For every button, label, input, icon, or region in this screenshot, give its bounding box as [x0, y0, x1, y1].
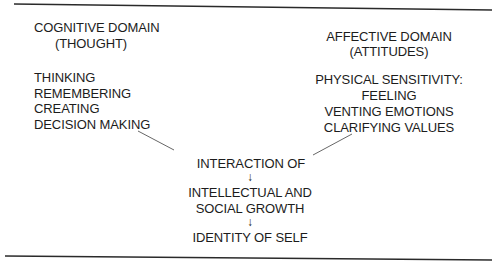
affective-connector [313, 134, 352, 155]
affective-item: CLARIFYING VALUES [324, 120, 454, 135]
cognitive-item: THINKING [34, 70, 95, 85]
down-arrow-icon: ↓ [247, 216, 253, 228]
flow-step-identity: IDENTITY OF SELF [192, 230, 307, 245]
affective-item: VENTING EMOTIONS [324, 104, 453, 119]
flow-step-interaction: INTERACTION OF [197, 156, 305, 171]
affective-item: FEELING [362, 88, 417, 103]
cognitive-domain-subtitle: (THOUGHT) [55, 36, 127, 51]
bottom-rule [5, 256, 492, 260]
flow-step-social-growth: SOCIAL GROWTH [196, 201, 305, 216]
top-rule [14, 4, 492, 10]
cognitive-domain-title: COGNITIVE DOMAIN [34, 20, 160, 35]
down-arrow-icon: ↓ [247, 171, 253, 183]
cognitive-item: DECISION MAKING [34, 117, 150, 132]
affective-domain-subtitle: (ATTITUDES) [350, 44, 429, 59]
cognitive-item: CREATING [34, 101, 99, 116]
flow-step-intellectual: INTELLECTUAL AND [188, 185, 312, 200]
cognitive-item: REMEMBERING [34, 86, 131, 101]
cognitive-connector [138, 131, 174, 150]
affective-item: PHYSICAL SENSITIVITY: [315, 72, 463, 87]
affective-domain-title: AFFECTIVE DOMAIN [326, 29, 452, 44]
